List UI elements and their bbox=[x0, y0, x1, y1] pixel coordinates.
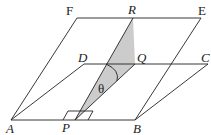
line-eb bbox=[135, 18, 201, 120]
geometry-diagram: F R E D Q C θ A P B bbox=[0, 0, 211, 135]
label-b: B bbox=[133, 122, 141, 135]
label-theta: θ bbox=[98, 82, 104, 95]
label-e: E bbox=[198, 4, 206, 17]
label-r: R bbox=[128, 3, 136, 16]
label-q: Q bbox=[137, 51, 146, 64]
label-f: F bbox=[66, 4, 73, 17]
label-a: A bbox=[6, 122, 14, 135]
label-d: D bbox=[78, 51, 87, 64]
line-af bbox=[11, 18, 77, 120]
label-c: C bbox=[201, 51, 210, 64]
line-ad bbox=[11, 64, 84, 120]
diagram-svg bbox=[0, 0, 211, 135]
label-p: P bbox=[62, 121, 70, 134]
line-cb bbox=[135, 64, 208, 120]
